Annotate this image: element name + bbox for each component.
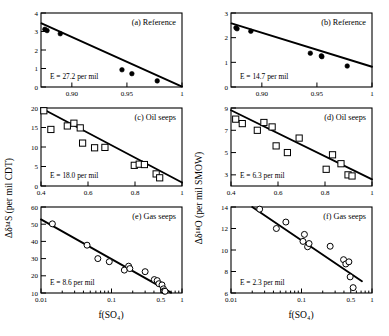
y-tick-label: 1 xyxy=(35,65,39,73)
panel-title: (f) Gas seeps xyxy=(323,212,366,221)
y-tick-label: 60 xyxy=(31,204,39,212)
y-tick-label: 40 xyxy=(31,238,39,246)
panel-title: (e) Gas seeps xyxy=(132,212,176,221)
data-point xyxy=(106,259,112,265)
data-point xyxy=(273,226,279,232)
y-tick-label: 10 xyxy=(221,247,229,255)
data-point xyxy=(141,161,147,167)
x-tick-label: 1 xyxy=(180,296,184,304)
x-tick-label: 0.6 xyxy=(84,189,93,197)
data-point xyxy=(91,145,97,151)
data-point xyxy=(95,256,101,262)
fractionation-annotation: E = 14.7 per mil xyxy=(240,72,288,81)
panel-a: 0.900.95101234(a) ReferenceE = 27.2 per … xyxy=(35,10,185,98)
panel-b: 0.900.9510123(b) ReferenceE = 14.7 per m… xyxy=(225,10,375,98)
x-axis-title-right: f(SO₄) xyxy=(288,309,313,321)
data-point xyxy=(347,274,353,280)
y-tick-label: 3 xyxy=(35,28,39,36)
y-tick-label: 4 xyxy=(35,10,39,18)
data-point xyxy=(346,259,352,265)
data-point xyxy=(306,241,312,247)
y-tick-label: 2 xyxy=(35,47,39,55)
data-point xyxy=(41,108,47,114)
y-tick-label: 3 xyxy=(225,171,229,179)
data-point xyxy=(308,51,313,56)
data-point xyxy=(254,127,260,133)
x-tick-label: 0.5 xyxy=(156,296,165,304)
y-tick-label: 6 xyxy=(225,290,229,298)
fractionation-annotation: E = 18.0 per mil xyxy=(50,171,98,180)
panel-title: (b) Reference xyxy=(321,18,366,27)
data-point xyxy=(127,266,133,272)
data-point xyxy=(155,79,160,84)
x-tick-label: 0.90 xyxy=(66,90,79,98)
x-tick-label: 1 xyxy=(370,296,374,304)
y-tick-label: 30 xyxy=(31,255,39,263)
y-tick-label: 12 xyxy=(221,225,229,233)
data-point xyxy=(284,149,290,155)
data-point xyxy=(345,64,350,69)
x-tick-label: 0.4 xyxy=(227,189,236,197)
data-point xyxy=(45,28,50,33)
data-point xyxy=(261,119,267,125)
data-point xyxy=(120,67,125,72)
data-point xyxy=(58,31,63,36)
y-tick-label: 0 xyxy=(35,183,39,191)
data-point xyxy=(157,175,163,181)
x-tick-label: 0.8 xyxy=(131,189,140,197)
y-tick-label: 20 xyxy=(31,105,39,113)
panel-title: (c) Oil seeps xyxy=(135,113,176,122)
data-point xyxy=(84,242,90,248)
y-axis-title-left: Δδ³⁴S (per mil CDT) xyxy=(3,158,15,238)
data-point xyxy=(349,173,355,179)
data-point xyxy=(162,288,168,294)
x-tick-label: 1 xyxy=(180,189,184,197)
data-point xyxy=(235,26,240,31)
x-tick-label: 0.4 xyxy=(37,189,46,197)
panel-f: 0.010.10.5168101214(f) Gas seepsE = 2.3 … xyxy=(221,204,374,304)
y-tick-label: 20 xyxy=(31,272,39,280)
fractionation-annotation: E = 8.6 per mil xyxy=(50,278,95,287)
x-tick-label: 0.5 xyxy=(346,296,355,304)
data-point xyxy=(249,29,254,34)
data-point xyxy=(77,125,83,131)
data-point xyxy=(233,116,239,122)
y-tick-label: 5 xyxy=(35,163,39,171)
data-point xyxy=(79,140,85,146)
x-tick-label: 1 xyxy=(180,90,184,98)
y-tick-label: 10 xyxy=(31,290,39,298)
data-point xyxy=(257,206,263,212)
panel-e: 0.010.10.51102030405060(e) Gas seepsE = … xyxy=(31,204,184,304)
data-point xyxy=(329,152,335,158)
fractionation-annotation: E = 27.2 per mil xyxy=(50,72,98,81)
data-point xyxy=(283,219,289,225)
y-tick-label: 50 xyxy=(31,221,39,229)
data-point xyxy=(269,124,275,130)
y-tick-label: 0 xyxy=(35,84,39,92)
x-tick-label: 1 xyxy=(370,189,374,197)
isotope-fractionation-figure: 0.900.95101234(a) ReferenceE = 27.2 per … xyxy=(0,0,389,336)
data-point xyxy=(142,269,148,275)
y-tick-label: 3 xyxy=(225,10,229,18)
data-point xyxy=(323,166,329,172)
fractionation-annotation: E = 2.3 per mil xyxy=(240,278,285,287)
data-point xyxy=(49,221,55,227)
data-point xyxy=(130,71,135,76)
y-tick-label: 2 xyxy=(225,34,229,42)
fractionation-annotation: E = 6.3 per mil xyxy=(240,171,285,180)
y-tick-label: 15 xyxy=(31,124,39,132)
figure-canvas: 0.900.95101234(a) ReferenceE = 27.2 per … xyxy=(0,0,389,336)
y-tick-label: 7 xyxy=(225,127,229,135)
data-point xyxy=(350,285,356,291)
data-point xyxy=(320,54,325,59)
x-tick-label: 0.1 xyxy=(297,296,306,304)
panel-d: 0.40.60.813579(d) Oil seepsE = 6.3 per m… xyxy=(225,105,375,197)
x-axis-title-left: f(SO₄) xyxy=(98,309,123,321)
y-axis-title-right: Δδ¹⁸O (per mil SMOW) xyxy=(193,152,205,244)
x-tick-label: 0.95 xyxy=(121,90,134,98)
y-tick-label: 8 xyxy=(225,268,229,276)
data-point xyxy=(301,231,307,237)
data-point xyxy=(296,135,302,141)
x-tick-label: 1 xyxy=(370,90,374,98)
y-tick-label: 0 xyxy=(225,84,229,92)
